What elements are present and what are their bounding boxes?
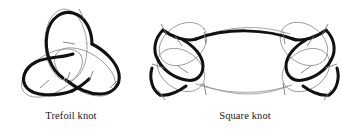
square-strand-right-b bbox=[293, 30, 326, 40]
tick-mark bbox=[204, 83, 206, 95]
trefoil-strand-top bbox=[46, 12, 92, 78]
tick-mark bbox=[40, 80, 49, 88]
square-strand-left-a bbox=[155, 30, 163, 60]
tick-mark bbox=[63, 42, 75, 44]
tick-mark bbox=[301, 66, 311, 73]
tick-mark bbox=[204, 32, 206, 44]
trefoil-knot-group bbox=[13, 8, 124, 108]
trefoil-strands bbox=[24, 12, 120, 94]
caption-trefoil-knot: Trefoil knot bbox=[0, 110, 142, 121]
square-knot-group bbox=[149, 13, 338, 100]
knot-figure: Trefoil knot Square knot bbox=[0, 0, 342, 134]
square-companion-curves bbox=[149, 13, 338, 100]
square-strand-bottom-bridge bbox=[196, 84, 292, 92]
tick-mark bbox=[283, 32, 285, 44]
tick-mark bbox=[178, 66, 188, 73]
square-strand-left-c bbox=[158, 40, 203, 80]
square-strands bbox=[151, 30, 338, 95]
caption-square-knot: Square knot bbox=[165, 110, 325, 121]
tick-mark bbox=[89, 71, 93, 82]
